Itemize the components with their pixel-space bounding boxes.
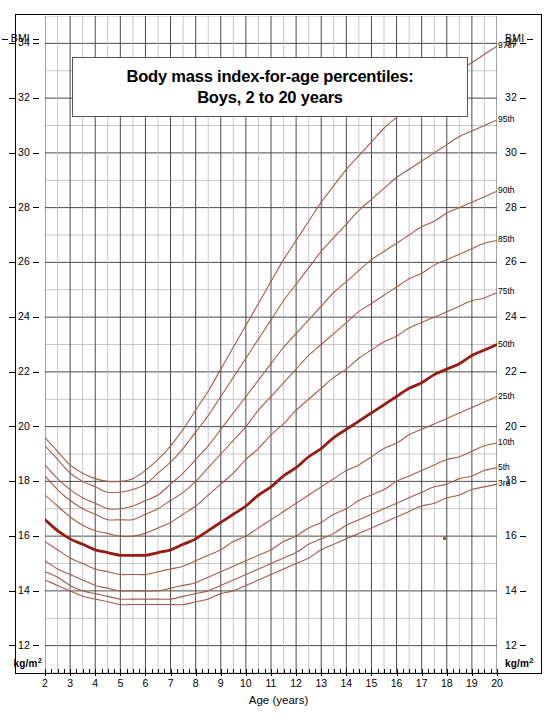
x-tick-7: 7 — [168, 677, 174, 689]
x-tickmark — [171, 669, 172, 676]
x-tickmark — [215, 669, 216, 673]
x-tickmark — [227, 669, 228, 673]
x-tickmark — [152, 669, 153, 673]
x-tickmark — [390, 669, 391, 673]
x-tickmark — [70, 669, 71, 676]
x-tickmark — [208, 669, 209, 673]
x-tickmark — [127, 669, 128, 673]
percentile-label-50th: 50th — [498, 340, 515, 349]
x-tick-11: 11 — [266, 677, 277, 689]
percentile-label-3rd: 3rd — [498, 479, 510, 488]
x-tickmark — [158, 669, 159, 673]
percentile-label-90th: 90th — [498, 186, 515, 195]
x-tick-4: 4 — [92, 677, 98, 689]
x-tickmark — [315, 669, 316, 673]
x-tickmark — [89, 669, 90, 673]
x-tickmark — [284, 669, 285, 673]
x-tickmark — [441, 669, 442, 673]
x-tickmark — [365, 669, 366, 673]
x-tickmark — [240, 669, 241, 673]
y-tick-left-30: 30 — [6, 146, 42, 158]
x-tickmark — [371, 669, 372, 676]
x-tick-20: 20 — [491, 677, 503, 689]
x-tickmark — [45, 669, 46, 676]
x-tickmark — [309, 669, 310, 673]
x-tickmark — [353, 669, 354, 673]
x-axis: 234567891011121314151617181920 — [45, 675, 497, 691]
percentile-label-85th: 85th — [498, 235, 515, 244]
y-tick-left-20: 20 — [6, 420, 42, 432]
percentile-label-97th: 97th — [498, 41, 515, 50]
x-tick-17: 17 — [416, 677, 428, 689]
y-axis-left: BMI343230282624222018161412kg/m2 — [15, 14, 46, 674]
x-tickmark — [290, 669, 291, 673]
x-tickmark — [196, 669, 197, 676]
x-tickmark — [51, 669, 52, 673]
x-tickmark — [346, 669, 347, 676]
x-tickmark — [328, 669, 329, 673]
x-tickmark — [202, 669, 203, 673]
x-tickmark — [58, 669, 59, 673]
x-tickmark — [384, 669, 385, 673]
x-tickmark — [484, 669, 485, 673]
x-tickmark — [409, 669, 410, 673]
y-tick-left-28: 28 — [6, 201, 42, 213]
percentile-label-75th: 75th — [498, 287, 515, 296]
x-tickmark — [453, 669, 454, 673]
x-tickmark — [472, 669, 473, 676]
percentile-label-5th: 5th — [498, 463, 510, 472]
x-tickmark — [233, 669, 234, 673]
x-tickmark — [102, 669, 103, 673]
x-tickmark — [120, 669, 121, 676]
x-tick-3: 3 — [67, 677, 73, 689]
x-tick-2: 2 — [42, 677, 48, 689]
x-tickmark — [422, 669, 423, 676]
x-tickmark — [428, 669, 429, 673]
x-tickmark — [296, 669, 297, 676]
percentile-label-25th: 25th — [498, 392, 515, 401]
y-tick-left-14: 14 — [6, 584, 42, 596]
x-tickmark — [183, 669, 184, 673]
y-tick-left-24: 24 — [6, 310, 42, 322]
y-tick-left-34: 34 — [6, 36, 42, 48]
x-tick-14: 14 — [340, 677, 352, 689]
x-axis-title: Age (years) — [0, 694, 557, 706]
x-tickmark — [340, 669, 341, 673]
x-tickmark — [252, 669, 253, 673]
x-tickmark — [76, 669, 77, 673]
x-tick-19: 19 — [466, 677, 478, 689]
y-axis-unit-bottom-left: kg/m2 — [13, 656, 42, 669]
x-tickmark — [246, 669, 247, 676]
y-tick-left-12: 12 — [6, 639, 42, 651]
y-tick-left-32: 32 — [6, 91, 42, 103]
x-tick-12: 12 — [290, 677, 302, 689]
x-tickmark — [265, 669, 266, 673]
x-tickmark — [459, 669, 460, 673]
percentile-labels: 97th95th90th85th75th50th25th10th5th3rd — [497, 14, 529, 674]
x-tickmark — [83, 669, 84, 673]
x-tickmark — [164, 669, 165, 673]
x-tickmark — [466, 669, 467, 673]
x-tickmark — [397, 669, 398, 676]
x-tickmark — [145, 669, 146, 676]
x-tick-8: 8 — [193, 677, 199, 689]
x-tickmark — [434, 669, 435, 673]
x-tickmark — [378, 669, 379, 673]
x-tickmark — [415, 669, 416, 673]
x-tickmark — [271, 669, 272, 676]
chart-title-line1: Body mass index-for-age percentiles: — [126, 66, 413, 87]
y-tick-left-26: 26 — [6, 255, 42, 267]
x-tickmark — [321, 669, 322, 676]
x-tickmark — [95, 669, 96, 676]
x-tickmark — [189, 669, 190, 673]
x-tickmark — [133, 669, 134, 673]
bmi-growth-chart-page: Body mass index-for-age percentiles: Boy… — [0, 0, 557, 718]
x-tickmark — [359, 669, 360, 673]
x-tickmark — [221, 669, 222, 676]
x-tickmark — [64, 669, 65, 673]
x-tickmark — [277, 669, 278, 673]
percentile-label-10th: 10th — [498, 438, 515, 447]
x-tick-9: 9 — [218, 677, 224, 689]
percentile-label-95th: 95th — [498, 115, 515, 124]
x-tickmark — [478, 669, 479, 673]
